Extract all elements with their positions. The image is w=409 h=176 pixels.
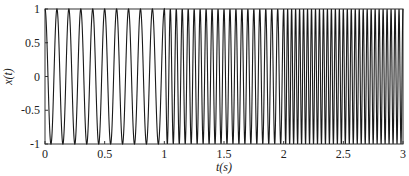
x-tick-label: 1.5	[217, 147, 232, 161]
x-tick-label: 1	[161, 147, 167, 161]
y-axis-label: x(t)	[1, 68, 15, 86]
signal-line	[45, 9, 403, 144]
y-tick-label: 0.5	[25, 36, 40, 50]
chart: 10.50-0.5-1 00.511.522.53 t(s) x(t)	[0, 0, 409, 176]
y-tick-label: -1	[30, 137, 40, 151]
x-tick-label: 0.5	[97, 147, 112, 161]
y-tick-label: -0.5	[21, 103, 40, 117]
x-tick-label: 2	[281, 147, 287, 161]
x-tick-label: 0	[42, 147, 48, 161]
y-axis: 10.50-0.5-1	[21, 2, 48, 151]
x-tick-label: 2.5	[336, 147, 351, 161]
x-axis-label: t(s)	[216, 160, 232, 174]
y-tick-label: 0	[34, 70, 40, 84]
x-tick-label: 3	[400, 147, 406, 161]
y-tick-label: 1	[34, 2, 40, 16]
